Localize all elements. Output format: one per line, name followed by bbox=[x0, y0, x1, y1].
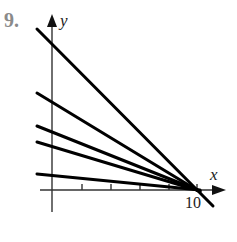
line-family bbox=[37, 29, 213, 206]
x-axis-arrow-icon bbox=[212, 185, 226, 195]
y-axis-label: y bbox=[58, 11, 68, 30]
line-1 bbox=[37, 29, 213, 206]
x-tick-label-10: 10 bbox=[185, 194, 201, 211]
x-axis-label: x bbox=[209, 165, 218, 184]
graph: y x 10 bbox=[0, 0, 237, 242]
y-axis-arrow-icon bbox=[47, 14, 57, 27]
